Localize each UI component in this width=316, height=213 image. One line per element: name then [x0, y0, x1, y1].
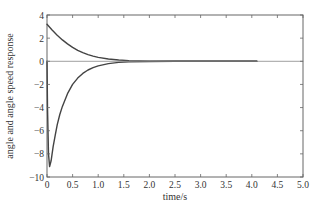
series-line-angle	[47, 24, 257, 61]
x-tick-label: 3.0	[195, 180, 207, 190]
y-tick-label: −2	[34, 80, 44, 90]
x-tick-label: 2.0	[143, 180, 155, 190]
x-tick-label: 3.5	[220, 180, 232, 190]
y-tick-label: 0	[39, 57, 44, 67]
y-tick-label: −10	[29, 173, 44, 183]
x-tick-label: 0.5	[67, 180, 79, 190]
y-axis-ticks: 420−2−4−6−8−10	[29, 11, 303, 183]
y-tick-label: −4	[34, 103, 44, 113]
x-tick-label: 1.5	[118, 180, 130, 190]
x-tick-label: 2.5	[169, 180, 181, 190]
x-tick-label: 4.5	[271, 180, 283, 190]
y-tick-label: 4	[39, 11, 44, 21]
y-tick-label: −6	[34, 126, 44, 136]
chart: 00.51.01.52.02.53.03.54.04.55.0 420−2−4−…	[0, 0, 316, 213]
y-axis-label: angle and angle speed response	[4, 33, 15, 159]
x-tick-label: 5.0	[297, 180, 309, 190]
x-tick-label: 0	[45, 180, 50, 190]
x-axis-label: time/s	[163, 191, 188, 202]
series-layer	[47, 24, 303, 166]
series-line-angle-speed	[47, 61, 257, 166]
x-tick-label: 1.0	[92, 180, 104, 190]
x-axis-ticks: 00.51.01.52.02.53.03.54.04.55.0	[45, 15, 310, 190]
plot-border	[47, 15, 303, 177]
y-tick-label: 2	[39, 34, 44, 44]
y-tick-label: −8	[34, 149, 44, 159]
plot-frame	[47, 15, 303, 177]
x-tick-label: 4.0	[246, 180, 258, 190]
